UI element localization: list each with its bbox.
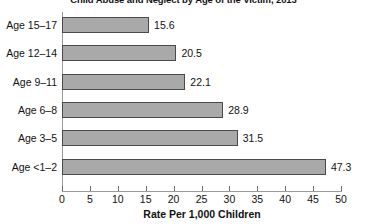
y-axis-tick-label: Age 12–14 [6, 45, 57, 61]
bar-row: 47.3 [62, 159, 341, 175]
bar [62, 74, 185, 90]
bar [62, 45, 176, 61]
bar-value-label: 28.9 [228, 102, 248, 118]
bar-value-label: 31.5 [243, 130, 263, 146]
bar-row: 15.6 [62, 17, 341, 33]
x-axis-tick-mark [313, 186, 314, 191]
x-axis-tick-mark [62, 186, 63, 191]
bar-value-label: 20.5 [181, 45, 201, 61]
x-axis-tick-label: 40 [270, 193, 300, 205]
x-axis-tick-label: 50 [326, 193, 356, 205]
bar-row: 31.5 [62, 130, 341, 146]
bar-chart: Child Abuse and Neglect by Age of the Vi… [0, 0, 367, 224]
chart-title: Child Abuse and Neglect by Age of the Vi… [0, 0, 367, 6]
bar [62, 130, 238, 146]
x-axis-tick-mark [285, 186, 286, 191]
bar [62, 17, 149, 33]
x-axis-tick-mark [229, 186, 230, 191]
x-axis-tick-label: 20 [159, 193, 189, 205]
x-axis-line [62, 191, 342, 192]
bar-row: 20.5 [62, 45, 341, 61]
x-axis-tick-label: 10 [103, 193, 133, 205]
y-axis-tick-labels: Age 15–17Age 12–14Age 9–11Age 6–8Age 3–5… [0, 14, 57, 189]
x-axis-tick-label: 25 [187, 193, 217, 205]
x-axis-tick-label: 0 [47, 193, 77, 205]
x-axis-tick-mark [90, 186, 91, 191]
bar-value-label: 15.6 [154, 17, 174, 33]
y-axis-tick-label: Age 3–5 [18, 130, 57, 146]
x-axis-tick-mark [257, 186, 258, 191]
x-axis-tick-label: 5 [75, 193, 105, 205]
x-axis-title: Rate Per 1,000 Children [62, 208, 342, 220]
x-axis-tick-mark [146, 186, 147, 191]
bar [62, 102, 223, 118]
bar-value-label: 47.3 [331, 159, 351, 175]
y-axis-tick-label: Age 15–17 [6, 17, 57, 33]
x-axis-tick-mark [341, 186, 342, 191]
bar [62, 159, 326, 175]
x-axis-tick-label: 30 [214, 193, 244, 205]
x-axis-tick-label: 15 [131, 193, 161, 205]
plot-area: 15.620.522.128.931.547.3 [62, 14, 341, 189]
x-axis-tick-label: 35 [242, 193, 272, 205]
x-axis-tick-label: 45 [298, 193, 328, 205]
x-axis-tick-mark [118, 186, 119, 191]
y-axis-tick-label: Age <1–2 [12, 159, 57, 175]
y-axis-tick-label: Age 6–8 [18, 102, 57, 118]
x-axis-tick-mark [174, 186, 175, 191]
y-axis-tick-label: Age 9–11 [13, 74, 57, 90]
bar-row: 28.9 [62, 102, 341, 118]
bar-value-label: 22.1 [190, 74, 210, 90]
bar-row: 22.1 [62, 74, 341, 90]
x-axis-tick-mark [202, 186, 203, 191]
